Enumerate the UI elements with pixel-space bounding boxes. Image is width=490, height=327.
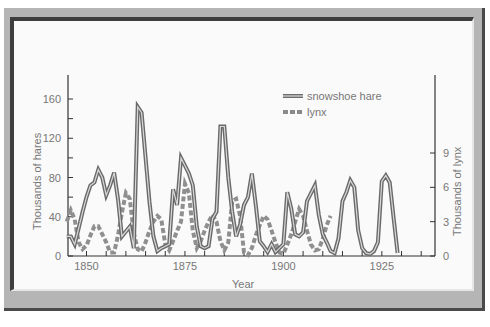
y-axis-title-right: Thousands of lynx	[451, 146, 463, 236]
y-tick-label-right: 9	[443, 147, 449, 159]
y-tick-label-right: 0	[443, 250, 449, 262]
y-tick-label-right: 6	[443, 181, 449, 193]
x-tick-label: 1850	[74, 260, 98, 272]
y-axis-title-left: Thousands of hares	[31, 132, 43, 230]
y-tick-label-left: 120	[43, 132, 61, 144]
y-tick-label-right: 3	[443, 216, 449, 228]
x-tick-label: 1875	[173, 260, 197, 272]
legend-label-hare: snowshoe hare	[307, 90, 382, 102]
y-tick-label-left: 0	[55, 250, 61, 262]
y-tick-label-left: 80	[49, 172, 61, 184]
axes: 0408012016003691850187519001925	[43, 75, 449, 272]
data-lines	[67, 107, 398, 255]
legend-label-lynx: lynx	[307, 106, 327, 118]
hare-line-outer	[67, 107, 398, 254]
x-axis-title: Year	[232, 278, 255, 290]
x-tick-label: 1900	[271, 260, 295, 272]
y-tick-label-left: 40	[49, 211, 61, 223]
y-tick-label-left: 160	[43, 93, 61, 105]
x-tick-label: 1925	[370, 260, 394, 272]
chart-canvas: 0408012016003691850187519001925 snowshoe…	[0, 0, 490, 327]
legend: snowshoe hare lynx	[283, 90, 382, 118]
